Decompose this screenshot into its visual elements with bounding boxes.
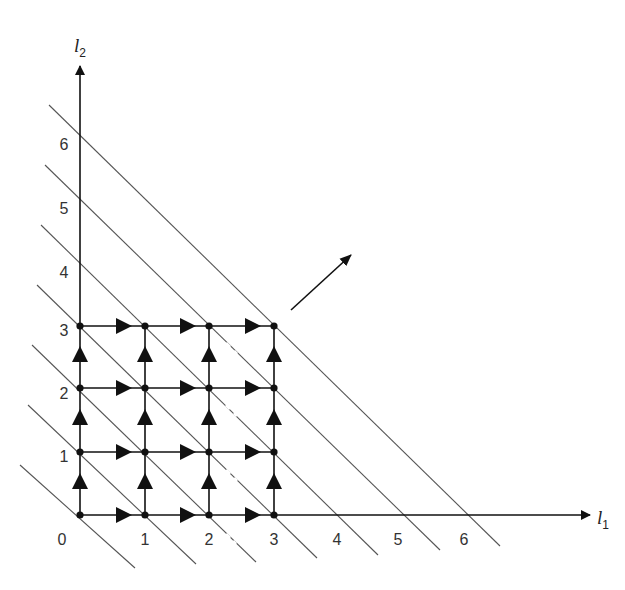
y-tick-labels: 1 2 3 4 5 6 bbox=[60, 136, 69, 465]
arrow-right-icon bbox=[245, 444, 261, 460]
x-tick-label: 6 bbox=[460, 531, 469, 548]
arrow-right-icon bbox=[116, 444, 132, 460]
diagonal-lines bbox=[20, 105, 500, 568]
y-tick-label: 1 bbox=[60, 448, 69, 465]
grid-edges bbox=[80, 326, 274, 515]
right-arrowheads bbox=[116, 318, 261, 523]
grid-nodes bbox=[76, 322, 277, 518]
x-tick-label: 1 bbox=[141, 531, 150, 548]
arrow-up-icon bbox=[266, 473, 282, 489]
direction-arrow bbox=[291, 255, 351, 310]
arrow-right-icon bbox=[180, 507, 196, 523]
y-tick-label: 3 bbox=[60, 322, 69, 339]
arrow-up-icon bbox=[137, 346, 153, 362]
x-axis-label: l1 bbox=[597, 507, 609, 532]
arrow-right-icon bbox=[180, 444, 196, 460]
arrow-right-icon bbox=[245, 507, 261, 523]
x-tick-label: 2 bbox=[205, 531, 214, 548]
diagonal-line-5 bbox=[45, 165, 440, 550]
diagonal-line-1 bbox=[28, 405, 196, 564]
arrow-right-icon bbox=[245, 318, 261, 334]
y-tick-label: 5 bbox=[60, 200, 69, 217]
arrow-up-icon bbox=[72, 346, 88, 362]
y-tick-label: 6 bbox=[60, 136, 69, 153]
arrow-right-icon bbox=[116, 380, 132, 396]
arrow-up-icon bbox=[266, 346, 282, 362]
up-arrowheads bbox=[72, 346, 282, 489]
arrow-right-icon bbox=[180, 318, 196, 334]
arrow-up-icon bbox=[201, 473, 217, 489]
diagram-svg: 0 1 2 3 4 5 6 1 2 3 4 5 6 l1 l2 bbox=[0, 0, 625, 590]
arrow-up-icon bbox=[137, 409, 153, 425]
x-tick-label: 4 bbox=[333, 531, 342, 548]
arrow-right-icon bbox=[180, 380, 196, 396]
y-tick-label: 4 bbox=[60, 264, 69, 281]
arrow-up-icon bbox=[201, 346, 217, 362]
lattice-diagram: 0 1 2 3 4 5 6 1 2 3 4 5 6 l1 l2 bbox=[0, 0, 625, 590]
x-tick-label: 3 bbox=[270, 531, 279, 548]
x-tick-labels: 0 1 2 3 4 5 6 bbox=[58, 531, 469, 548]
arrow-right-icon bbox=[116, 507, 132, 523]
y-tick-label: 2 bbox=[60, 385, 69, 402]
diagonal-gaps bbox=[226, 286, 241, 544]
y-axis-label: l2 bbox=[74, 35, 86, 60]
arrow-right-icon bbox=[116, 318, 132, 334]
x-tick-label: 0 bbox=[58, 531, 67, 548]
arrow-right-icon bbox=[245, 380, 261, 396]
x-tick-label: 5 bbox=[394, 531, 403, 548]
arrow-up-icon bbox=[201, 409, 217, 425]
arrow-up-icon bbox=[72, 473, 88, 489]
arrow-up-icon bbox=[72, 409, 88, 425]
arrow-up-icon bbox=[137, 473, 153, 489]
arrow-up-icon bbox=[266, 409, 282, 425]
